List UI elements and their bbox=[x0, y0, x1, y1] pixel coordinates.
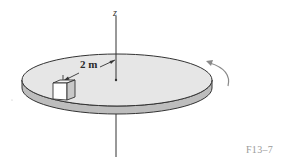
disk-center-point bbox=[115, 79, 117, 81]
rotation-arrowhead bbox=[206, 60, 213, 66]
figure-number: F13–7 bbox=[246, 144, 273, 155]
rotation-arrow-icon bbox=[210, 63, 229, 86]
diagram-svg bbox=[0, 0, 288, 166]
z-axis-label: z bbox=[113, 7, 117, 18]
cube-side bbox=[67, 80, 75, 100]
stray-mark bbox=[11, 99, 12, 100]
distance-label: 2 m bbox=[80, 58, 97, 70]
diagram-canvas: z 2 m F13–7 bbox=[0, 0, 288, 166]
cube-front bbox=[53, 83, 67, 100]
